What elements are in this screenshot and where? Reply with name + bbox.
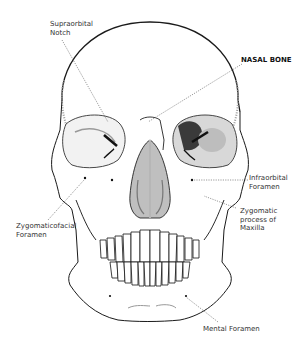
upper-teeth <box>100 230 199 262</box>
lower-teeth <box>110 262 190 286</box>
label-supraorbital-notch: Supraorbital Notch <box>50 20 93 37</box>
skull-diagram: Supraorbital Notch NASAL BONE Infraorbit… <box>0 0 299 352</box>
label-nasal-bone: NASAL BONE <box>241 56 292 65</box>
left-orbit <box>63 115 125 168</box>
label-zygomaticofacial-foramen: Zygomaticofacial Foramen <box>16 222 76 239</box>
label-infraorbital-foramen: Infraorbital Foramen <box>249 174 288 191</box>
label-zygomatic-process-maxilla: Zygomatic process of Maxilla <box>240 207 277 233</box>
label-mental-foramen: Mental Foramen <box>203 325 260 334</box>
